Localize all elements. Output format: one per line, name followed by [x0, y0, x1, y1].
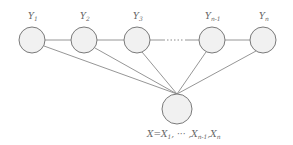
label-y1: Y1: [28, 11, 38, 22]
node-y1: [19, 27, 45, 53]
node-y2: [71, 27, 97, 53]
label-y3: Y3: [133, 11, 143, 22]
label-x: X=X1, ··· ,Xn-1,Xn: [146, 129, 221, 140]
edge-y2-x: [95, 48, 177, 94]
node-x: [162, 94, 192, 124]
node-yn-1: [199, 27, 225, 53]
crf-diagram: Y1 Y2 Y3 Yn-1 Yn X=X1, ··· ,Xn-1,Xn: [0, 0, 293, 145]
edge-yn-x: [177, 51, 256, 94]
node-yn: [250, 27, 276, 53]
node-y3: [124, 27, 150, 53]
edge-yn1-x: [177, 52, 206, 94]
label-y2: Y2: [80, 11, 90, 22]
label-yn: Yn: [259, 11, 269, 22]
label-yn-1: Yn-1: [205, 11, 221, 22]
